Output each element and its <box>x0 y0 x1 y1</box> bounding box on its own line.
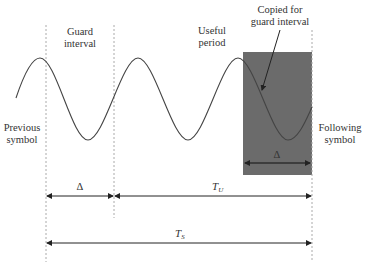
copied-delta-label: Δ <box>274 149 281 160</box>
following-symbol-label-2: symbol <box>325 134 356 145</box>
guard-interval-label-1: Guard <box>67 26 94 37</box>
useful-period-label-2: period <box>199 37 227 48</box>
symbol-period-symbol: TS <box>175 227 185 241</box>
useful-period-label-1: Useful <box>198 25 226 36</box>
previous-symbol-label-1: Previous <box>4 122 41 133</box>
useful-period-symbol: TU <box>212 180 224 194</box>
guard-interval-label-2: interval <box>64 38 96 49</box>
guard-interval-diagram: Guard interval Useful period Copied for … <box>0 0 367 268</box>
copied-label-1: Copied for <box>257 4 303 15</box>
previous-symbol-label-2: symbol <box>7 134 38 145</box>
guard-delta-label: Δ <box>77 181 84 192</box>
copied-label-2: guard interval <box>251 16 310 27</box>
following-symbol-label-1: Following <box>318 122 362 133</box>
